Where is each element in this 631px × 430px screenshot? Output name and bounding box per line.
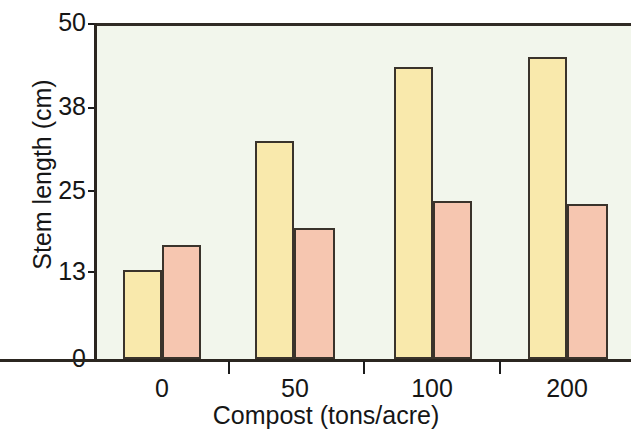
bars-layer — [0, 0, 631, 359]
x-tick-label-100: 100 — [387, 374, 477, 403]
bar-group-100-series-a — [394, 67, 433, 359]
x-axis-title: Compost (tons/acre) — [96, 401, 556, 430]
bar-group-100-series-b — [433, 201, 472, 359]
bar-group-50-series-a — [255, 141, 294, 359]
x-tick-mark-3 — [499, 361, 501, 374]
x-tick-label-50: 50 — [250, 374, 340, 403]
bar-group-200-series-a — [528, 57, 567, 359]
bar-group-200-series-b — [567, 204, 608, 359]
x-axis-line — [0, 359, 631, 362]
bar-group-0-series-a — [123, 270, 162, 359]
x-tick-label-0: 0 — [117, 374, 207, 403]
bar-group-0-series-b — [162, 245, 201, 359]
x-tick-mark-1 — [228, 361, 230, 374]
bar-chart-figure: Stem length (cm) 50 38 25 13 0 0 50 100 … — [0, 0, 631, 430]
x-tick-label-200: 200 — [522, 374, 612, 403]
bar-group-50-series-b — [294, 228, 335, 359]
x-tick-mark-2 — [363, 361, 365, 374]
